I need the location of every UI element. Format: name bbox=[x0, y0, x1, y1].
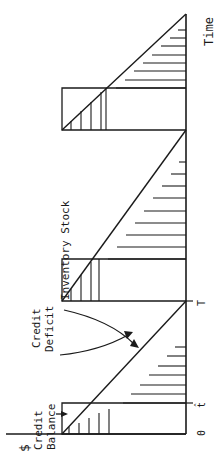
credit-deficit-hatch-3 bbox=[116, 30, 186, 88]
annotation-inventory-stock: Inventory Stock bbox=[60, 201, 72, 300]
credit-balance-hatch-3 bbox=[71, 88, 106, 130]
inventory-stock-pointer-arrow bbox=[64, 310, 139, 348]
tick-label-t-hat: t̂ bbox=[197, 402, 208, 408]
credit-balance-hatch-1 bbox=[69, 409, 109, 434]
credit-deficit-hatch-1 bbox=[123, 347, 186, 403]
value-axis-label: $ bbox=[18, 444, 32, 452]
credit-line-segment-1 bbox=[62, 301, 186, 434]
credit-deficit-hatch-2 bbox=[108, 162, 186, 259]
annotation-credit-balance-line1: Credit bbox=[33, 410, 45, 450]
credit-balance-hatch-2 bbox=[71, 259, 99, 301]
time-axis-label: Time bbox=[203, 17, 216, 46]
annotation-credit-deficit-line2: Deficit bbox=[44, 306, 56, 352]
inventory-stock-block-1 bbox=[62, 403, 186, 434]
tick-label-zero: 0 bbox=[197, 430, 208, 436]
annotation-credit-balance-line2: Balance bbox=[46, 404, 58, 450]
tick-label-capital-t: T bbox=[197, 300, 208, 306]
annotation-credit-deficit-line1: Credit bbox=[31, 308, 43, 348]
figure-canvas: $ Time 0 t̂ T Credit Balance Credit Defi… bbox=[0, 0, 223, 460]
chart-svg bbox=[0, 0, 223, 460]
